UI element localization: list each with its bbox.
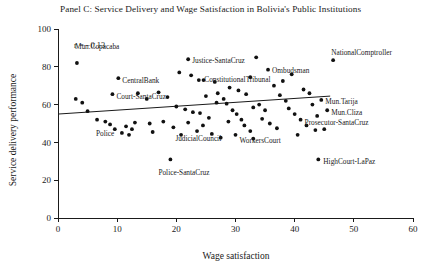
correlation-annotation: r = −0.13 [74, 41, 105, 50]
data-point-label: Court-SantaCruz [116, 92, 166, 101]
data-point [284, 99, 288, 103]
data-point [268, 122, 272, 126]
data-point [222, 97, 226, 101]
data-point [161, 120, 165, 124]
data-point-label: WorkersCourt [240, 136, 281, 145]
data-point-label: CentralBank [122, 76, 159, 85]
y-tick-label: 100 [38, 24, 52, 34]
x-axis-ticks: 0102030405060 [56, 218, 418, 234]
data-point [244, 92, 248, 96]
y-axis-title: Service delivery performance [8, 74, 18, 186]
data-point [293, 112, 297, 116]
data-point [260, 117, 264, 121]
x-tick-label: 0 [56, 224, 61, 234]
data-point [197, 78, 201, 82]
y-tick-label: 40 [42, 138, 52, 148]
data-point [235, 112, 239, 116]
data-point-label: NationalComptroller [331, 48, 392, 57]
data-point-label: JudicialCouncil [175, 134, 221, 143]
data-point [248, 129, 252, 133]
x-tick-label: 30 [231, 224, 241, 234]
data-point [204, 94, 208, 98]
data-point [254, 55, 258, 59]
y-tick-label: 0 [47, 213, 52, 223]
data-point [325, 108, 329, 112]
data-point [287, 106, 291, 110]
data-point [195, 129, 199, 133]
data-point [198, 111, 202, 115]
x-tick-label: 20 [172, 224, 182, 234]
x-tick-label: 60 [409, 224, 419, 234]
data-point [111, 92, 115, 96]
data-point [257, 103, 261, 107]
data-point-label: Police [96, 129, 114, 138]
data-point [216, 91, 220, 95]
data-point [225, 102, 229, 106]
x-tick-label: 10 [113, 224, 123, 234]
data-point [299, 118, 303, 122]
data-point-label: Ombudsman [272, 66, 310, 75]
data-point [322, 127, 326, 131]
data-point [75, 61, 79, 65]
data-point-label: ConstitutionalTribunal [204, 75, 270, 84]
y-tick-label: 60 [42, 100, 52, 110]
x-tick-label: 50 [349, 224, 359, 234]
data-point [177, 71, 181, 75]
data-point [215, 101, 219, 105]
data-point-label: Mun.Tarija [325, 97, 358, 106]
data-point [242, 123, 246, 127]
data-point [186, 57, 190, 61]
data-point [296, 133, 300, 137]
data-point [95, 118, 99, 122]
data-point [80, 101, 84, 105]
data-point [240, 118, 244, 122]
data-point [281, 79, 285, 83]
data-point [120, 131, 124, 135]
data-point [86, 109, 90, 113]
data-point-label: HighCourt-LaPaz [323, 157, 376, 166]
data-point [174, 105, 178, 109]
data-point [133, 121, 137, 125]
data-point [302, 88, 306, 92]
data-point-label: Justice-SantaCruz [192, 56, 245, 65]
data-point [171, 125, 175, 129]
x-axis-title: Wage satisfaction [202, 251, 269, 261]
data-point [103, 120, 107, 124]
data-point [319, 98, 323, 102]
data-point [275, 126, 279, 130]
data-point [263, 108, 267, 112]
data-point [278, 93, 282, 97]
data-point [251, 106, 255, 110]
data-point [169, 158, 173, 162]
data-point [191, 110, 195, 114]
chart-root: Panel C: Service Delivery and Wage Satis… [0, 0, 425, 264]
data-point [151, 130, 155, 134]
data-point [207, 116, 211, 120]
data-point [74, 97, 78, 101]
data-point [316, 158, 320, 162]
data-point [237, 89, 241, 93]
data-point [272, 84, 276, 88]
data-point [186, 121, 190, 125]
scatter-plot: 020406080100 0102030405060 Mun.CopacabaP… [0, 0, 425, 264]
data-point [166, 95, 170, 99]
data-point [313, 128, 317, 132]
data-point [311, 103, 315, 107]
y-tick-label: 20 [42, 175, 52, 185]
data-point-label: Mun.Cliza [331, 108, 363, 117]
data-point [228, 86, 232, 90]
data-point [116, 76, 120, 80]
data-point [308, 91, 312, 95]
data-point [227, 120, 231, 124]
data-point [231, 108, 235, 112]
y-axis-ticks: 020406080100 [38, 24, 59, 223]
data-point [127, 133, 131, 137]
data-point-label: Prosecutor-SantaCruz [305, 118, 370, 127]
data-point [108, 123, 112, 127]
data-point [130, 127, 134, 131]
data-point [183, 107, 187, 111]
data-point [331, 58, 335, 62]
data-point [266, 68, 270, 72]
x-tick-label: 40 [290, 224, 300, 234]
data-point [234, 133, 238, 137]
